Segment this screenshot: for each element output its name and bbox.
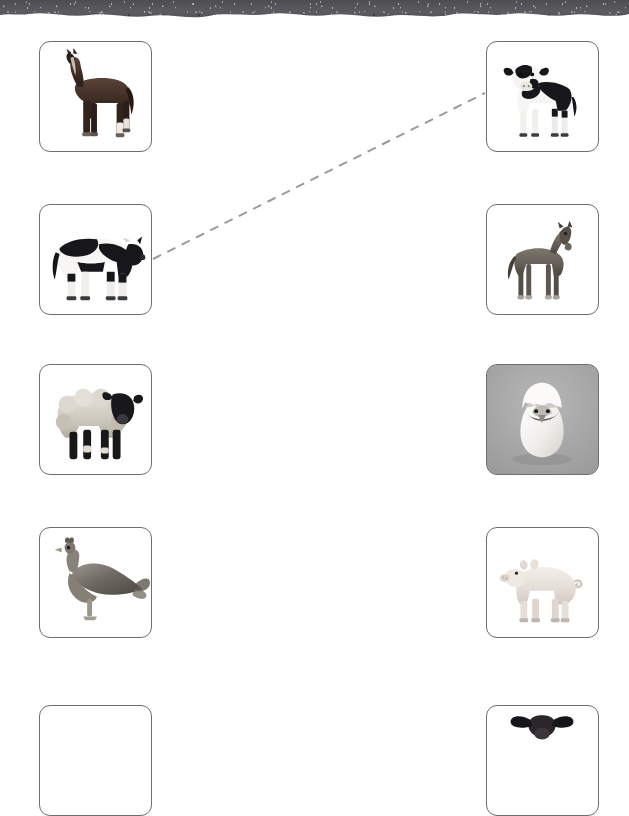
card-chick[interactable] [486,364,599,475]
card-calf[interactable] [486,41,599,152]
chick-photo [487,365,598,474]
card-lamb[interactable] [486,705,599,816]
card-goat[interactable] [39,705,152,816]
card-cow[interactable] [39,204,152,315]
foal-photo [487,205,598,314]
horse-photo [40,42,151,151]
sheep-photo [40,365,151,474]
card-piglet[interactable] [486,527,599,638]
piglet-photo [487,528,598,637]
chicken-photo [40,528,151,637]
card-sheep[interactable] [39,364,152,475]
calf-photo [487,42,598,151]
page-top-texture-band [0,0,629,22]
card-horse[interactable] [39,41,152,152]
card-foal[interactable] [486,204,599,315]
connector-cow-to-calf[interactable] [153,93,485,259]
lamb-photo [487,706,598,815]
card-chicken[interactable] [39,527,152,638]
goat-photo [40,706,151,815]
cow-photo [40,205,151,314]
torn-wavy-edge [0,10,629,22]
